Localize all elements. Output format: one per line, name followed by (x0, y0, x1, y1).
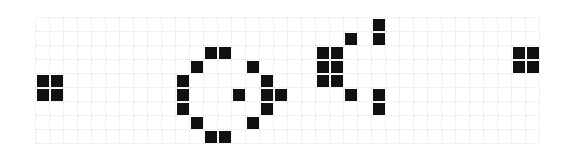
dead-cell[interactable] (190, 18, 204, 32)
dead-cell[interactable] (134, 32, 148, 46)
dead-cell[interactable] (302, 116, 316, 130)
dead-cell[interactable] (470, 46, 484, 60)
dead-cell[interactable] (330, 116, 344, 130)
dead-cell[interactable] (204, 116, 218, 130)
dead-cell[interactable] (316, 116, 330, 130)
dead-cell[interactable] (64, 116, 78, 130)
dead-cell[interactable] (442, 130, 456, 144)
dead-cell[interactable] (148, 46, 162, 60)
dead-cell[interactable] (526, 18, 540, 32)
dead-cell[interactable] (176, 60, 190, 74)
dead-cell[interactable] (316, 32, 330, 46)
dead-cell[interactable] (442, 32, 456, 46)
alive-cell[interactable] (330, 74, 344, 88)
dead-cell[interactable] (120, 88, 134, 102)
dead-cell[interactable] (330, 130, 344, 144)
alive-cell[interactable] (372, 18, 386, 32)
dead-cell[interactable] (50, 46, 64, 60)
dead-cell[interactable] (64, 130, 78, 144)
dead-cell[interactable] (288, 18, 302, 32)
dead-cell[interactable] (36, 130, 50, 144)
dead-cell[interactable] (148, 116, 162, 130)
dead-cell[interactable] (204, 32, 218, 46)
dead-cell[interactable] (414, 102, 428, 116)
dead-cell[interactable] (414, 116, 428, 130)
alive-cell[interactable] (512, 46, 526, 60)
dead-cell[interactable] (232, 60, 246, 74)
dead-cell[interactable] (162, 102, 176, 116)
dead-cell[interactable] (274, 18, 288, 32)
alive-cell[interactable] (344, 32, 358, 46)
dead-cell[interactable] (134, 74, 148, 88)
dead-cell[interactable] (36, 116, 50, 130)
dead-cell[interactable] (232, 130, 246, 144)
dead-cell[interactable] (176, 18, 190, 32)
dead-cell[interactable] (526, 116, 540, 130)
dead-cell[interactable] (260, 130, 274, 144)
dead-cell[interactable] (484, 102, 498, 116)
dead-cell[interactable] (120, 32, 134, 46)
dead-cell[interactable] (414, 60, 428, 74)
dead-cell[interactable] (372, 130, 386, 144)
dead-cell[interactable] (274, 130, 288, 144)
dead-cell[interactable] (456, 116, 470, 130)
alive-cell[interactable] (50, 88, 64, 102)
dead-cell[interactable] (456, 130, 470, 144)
dead-cell[interactable] (344, 74, 358, 88)
dead-cell[interactable] (64, 60, 78, 74)
alive-cell[interactable] (204, 130, 218, 144)
dead-cell[interactable] (64, 32, 78, 46)
alive-cell[interactable] (232, 88, 246, 102)
dead-cell[interactable] (288, 74, 302, 88)
dead-cell[interactable] (246, 130, 260, 144)
dead-cell[interactable] (456, 18, 470, 32)
alive-cell[interactable] (218, 46, 232, 60)
dead-cell[interactable] (428, 18, 442, 32)
dead-cell[interactable] (386, 130, 400, 144)
dead-cell[interactable] (400, 116, 414, 130)
dead-cell[interactable] (428, 102, 442, 116)
dead-cell[interactable] (106, 116, 120, 130)
dead-cell[interactable] (232, 116, 246, 130)
dead-cell[interactable] (162, 18, 176, 32)
alive-cell[interactable] (36, 74, 50, 88)
dead-cell[interactable] (274, 116, 288, 130)
dead-cell[interactable] (456, 74, 470, 88)
dead-cell[interactable] (148, 74, 162, 88)
dead-cell[interactable] (330, 88, 344, 102)
dead-cell[interactable] (36, 32, 50, 46)
alive-cell[interactable] (260, 88, 274, 102)
dead-cell[interactable] (428, 46, 442, 60)
dead-cell[interactable] (512, 88, 526, 102)
dead-cell[interactable] (64, 18, 78, 32)
dead-cell[interactable] (386, 102, 400, 116)
dead-cell[interactable] (344, 130, 358, 144)
dead-cell[interactable] (400, 60, 414, 74)
dead-cell[interactable] (470, 130, 484, 144)
dead-cell[interactable] (134, 102, 148, 116)
dead-cell[interactable] (498, 88, 512, 102)
dead-cell[interactable] (260, 32, 274, 46)
dead-cell[interactable] (386, 88, 400, 102)
alive-cell[interactable] (526, 60, 540, 74)
alive-cell[interactable] (372, 102, 386, 116)
dead-cell[interactable] (512, 130, 526, 144)
dead-cell[interactable] (190, 102, 204, 116)
dead-cell[interactable] (218, 18, 232, 32)
dead-cell[interactable] (134, 130, 148, 144)
dead-cell[interactable] (344, 116, 358, 130)
dead-cell[interactable] (78, 130, 92, 144)
dead-cell[interactable] (316, 18, 330, 32)
dead-cell[interactable] (232, 102, 246, 116)
dead-cell[interactable] (498, 46, 512, 60)
dead-cell[interactable] (288, 60, 302, 74)
dead-cell[interactable] (162, 74, 176, 88)
dead-cell[interactable] (106, 18, 120, 32)
dead-cell[interactable] (176, 32, 190, 46)
dead-cell[interactable] (78, 102, 92, 116)
dead-cell[interactable] (484, 88, 498, 102)
dead-cell[interactable] (316, 130, 330, 144)
dead-cell[interactable] (498, 18, 512, 32)
dead-cell[interactable] (232, 74, 246, 88)
dead-cell[interactable] (442, 60, 456, 74)
